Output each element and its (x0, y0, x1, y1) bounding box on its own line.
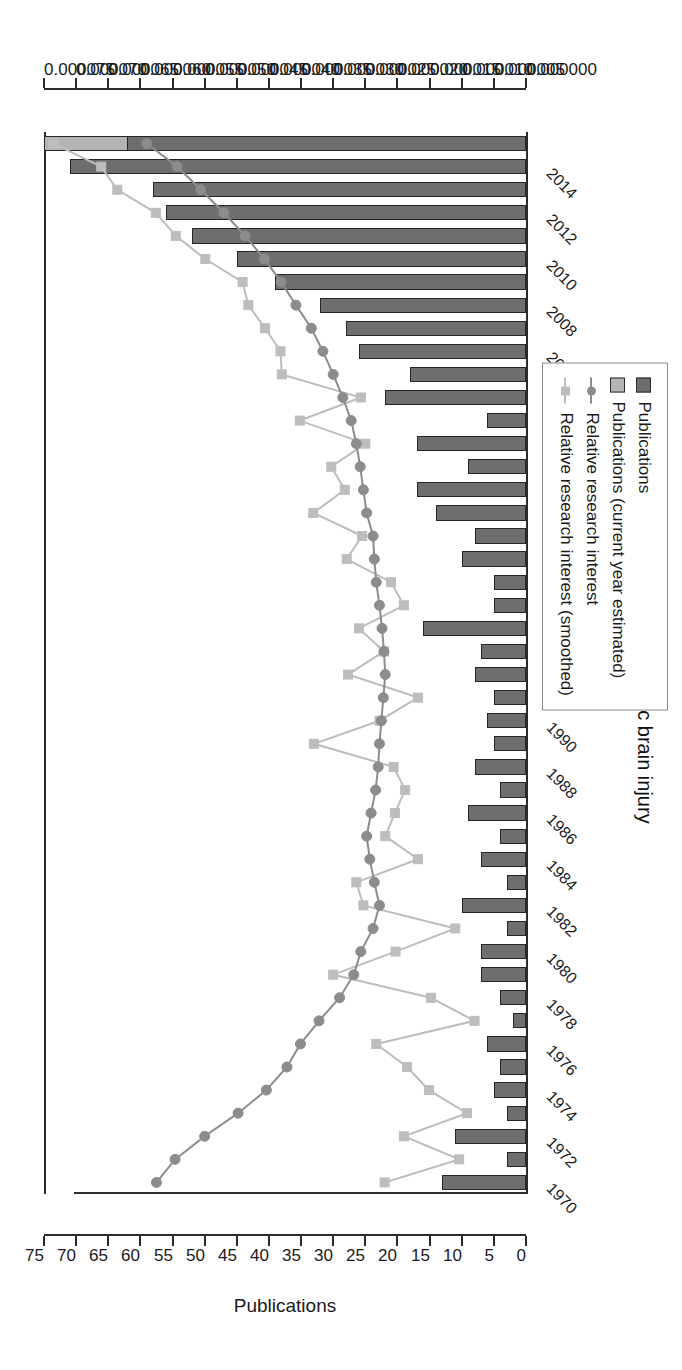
legend-item-label: Publications (current year estimated) (608, 401, 628, 678)
publications-tick-label: 50 (186, 1246, 205, 1266)
publications-tick (139, 1236, 141, 1246)
relative-research-interest-smoothed-marker (387, 578, 396, 587)
relative-research-interest-smoothed-marker (470, 1016, 479, 1025)
relative-research-interest-smoothed (49, 139, 479, 1187)
year-tick-label: 2010 (543, 257, 581, 295)
relative-research-interest-smoothed-marker (414, 855, 423, 864)
year-tick-label: 1986 (543, 811, 581, 849)
relative-research-interest-smoothed-marker (238, 278, 247, 287)
year-tick-label: 1980 (543, 949, 581, 987)
relative-research-interest-marker (172, 162, 182, 172)
publications-tick-label: 0 (517, 1246, 526, 1266)
relative-research-interest-marker (368, 924, 378, 934)
relative-research-interest-marker (335, 993, 345, 1003)
year-tick-label: 1990 (543, 718, 581, 756)
relative-research-interest-marker (371, 785, 381, 795)
relative-research-interest-smoothed-marker (261, 324, 270, 333)
relative-research-interest-smoothed-marker (399, 1132, 408, 1141)
relative-research-interest-marker (356, 947, 366, 957)
publications-tick-label: 15 (411, 1246, 430, 1266)
relative-research-interest-marker (142, 139, 152, 149)
chart-page: Topic: Sleep in traumatic brain injury P… (0, 0, 682, 1370)
publications-tick (364, 1236, 366, 1246)
relative-research-interest-smoothed-marker (201, 254, 210, 263)
relative-research-interest-marker (349, 970, 359, 980)
relative-research-interest-marker (351, 439, 361, 449)
relative-research-interest-smoothed-marker (329, 970, 338, 979)
publications-tick (43, 1236, 45, 1246)
relative-research-interest-smoothed-marker (49, 139, 58, 148)
publications-tick-label: 40 (250, 1246, 269, 1266)
relative-research-interest-marker (295, 1039, 305, 1049)
relative-research-interest-smoothed-marker (361, 439, 370, 448)
publications-tick (172, 1236, 174, 1246)
legend-item-label: Relative research interest (582, 412, 602, 605)
legend-line-marker-icon (585, 377, 600, 403)
publications-tick-label: 60 (121, 1246, 140, 1266)
year-tick-label: 1988 (543, 765, 581, 803)
relative-research-interest-smoothed-marker (380, 1178, 389, 1187)
relative-research-interest-marker (314, 1016, 324, 1026)
publications-tick-label: 55 (154, 1246, 173, 1266)
legend-item[interactable]: Publications (631, 377, 657, 695)
relative-research-interest-smoothed-marker (399, 601, 408, 610)
relative-research-interest-smoothed-marker (309, 739, 318, 748)
relative-research-interest-smoothed-marker (424, 1086, 433, 1095)
relative-research-interest-marker (377, 623, 387, 633)
relative-research-interest-smoothed-marker (372, 1039, 381, 1048)
publications-tick (204, 1236, 206, 1246)
relative-research-interest-marker (369, 554, 379, 564)
relative-research-interest-marker (374, 900, 384, 910)
legend-item[interactable]: Relative research interest (579, 377, 605, 695)
relative-research-interest-smoothed-marker (358, 532, 367, 541)
relative-research-interest-marker (276, 277, 286, 287)
relative-research-interest-smoothed-marker (462, 1109, 471, 1118)
publications-tick (300, 1236, 302, 1246)
relative-research-interest-marker (151, 1177, 161, 1187)
legend-item[interactable]: Publications (current year estimated) (605, 377, 631, 695)
year-tick-label: 1974 (543, 1088, 581, 1126)
relative-research-interest-marker (376, 716, 386, 726)
relative-research-interest-marker (318, 346, 328, 356)
relative-research-interest-smoothed-marker (327, 462, 336, 471)
relative-research-interest-marker (291, 300, 301, 310)
legend-light-square-icon (611, 377, 626, 392)
relative-research-interest-smoothed-marker (414, 693, 423, 702)
relative-research-interest-smoothed-marker (343, 670, 352, 679)
relative-research-interest-marker (282, 1062, 292, 1072)
relative-research-interest-smoothed-marker (97, 162, 106, 171)
year-tick-label: 1978 (543, 995, 581, 1033)
relative-research-interest-smoothed-marker (244, 301, 253, 310)
publications-tick (268, 1236, 270, 1246)
publications-tick-label: 5 (484, 1246, 493, 1266)
relative-research-interest-marker (365, 854, 375, 864)
relative-research-interest-marker (371, 577, 381, 587)
relative-research-interest-marker (306, 323, 316, 333)
publications-tick (396, 1236, 398, 1246)
relative-research-interest-marker (170, 1154, 180, 1164)
publications-value-axis (44, 1234, 526, 1236)
year-tick-label: 1982 (543, 903, 581, 941)
publications-tick (493, 1236, 495, 1246)
line-series-group (44, 132, 526, 1194)
relative-research-interest-marker (338, 393, 348, 403)
publications-tick-label: 25 (346, 1246, 365, 1266)
relative-research-interest-marker (369, 877, 379, 887)
publications-tick-label: 75 (25, 1246, 44, 1266)
relative-research-interest-marker (366, 808, 376, 818)
publications-tick-label: 20 (379, 1246, 398, 1266)
relative-research-interest-smoothed-marker (340, 485, 349, 494)
legend-item[interactable]: Relative research interest (smoothed) (553, 377, 579, 695)
publications-tick (107, 1236, 109, 1246)
relative-research-interest-marker (240, 231, 250, 241)
relative-research-interest-smoothed-marker (354, 624, 363, 633)
relative-research-interest-marker (358, 485, 368, 495)
year-tick-label: 2012 (543, 210, 581, 248)
relative-research-interest-smoothed-marker (295, 416, 304, 425)
relative-research-interest-marker (233, 1108, 243, 1118)
relative-research-interest-smoothed-marker (151, 208, 160, 217)
relative-research-interest-marker (373, 762, 383, 772)
relative-research-interest-marker (219, 208, 229, 218)
relative-research-interest-smoothed-marker (276, 347, 285, 356)
relative-research-interest-polyline (147, 144, 385, 1183)
